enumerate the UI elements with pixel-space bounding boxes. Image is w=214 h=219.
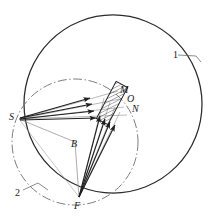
label-callout-inner: 2: [15, 188, 20, 198]
chord-line-SF: [19, 119, 79, 197]
callout-leader-2: [23, 183, 48, 190]
diagram-canvas: [0, 0, 214, 219]
label-center-point: B: [71, 139, 77, 149]
optical-ray-diagram: S B F M O N 1 2: [0, 0, 214, 219]
radius-line-BF: [75, 142, 79, 197]
label-callout-outer: 1: [173, 50, 178, 60]
label-source-point: S: [9, 112, 14, 122]
reflected-ray-bundle: [79, 116, 115, 197]
label-mirror-bottom: N: [132, 104, 139, 114]
label-focus-point: F: [74, 201, 80, 211]
